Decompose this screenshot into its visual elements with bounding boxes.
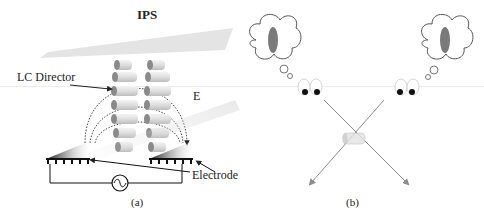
eyes-icon: [395, 79, 419, 95]
caption-b: (b): [346, 196, 359, 208]
lc-molecule: [343, 133, 366, 144]
director-pointer: [70, 85, 110, 89]
viewing-angle-schematic: [242, 0, 484, 218]
ips-schematic: [0, 0, 242, 218]
field-label: E: [193, 89, 200, 104]
thought-bubble-icon: [422, 14, 473, 79]
thought-bubble-icon: [250, 14, 301, 78]
caption-a: (a): [131, 196, 143, 208]
ray-left-viewer: [324, 100, 407, 183]
figure-title: IPS: [137, 7, 157, 23]
polarizer-plate: [40, 28, 233, 58]
lc-director-label: LC Director: [17, 70, 75, 85]
panel-a-ips-diagram: IPS LC Director E Electrode (a): [0, 0, 242, 218]
left-electrode: [46, 141, 90, 164]
ac-source-icon: [112, 175, 128, 191]
eyes-icon: [298, 79, 322, 95]
panel-b-viewing-diagram: (b): [242, 0, 484, 218]
electrode-label: Electrode: [192, 168, 238, 183]
